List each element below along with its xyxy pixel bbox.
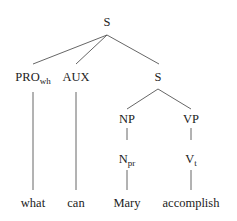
- node-vt-base: V: [185, 152, 194, 166]
- leaf-accomplish: accomplish: [163, 197, 220, 210]
- leaf-what: what: [21, 197, 45, 210]
- leaf-can: can: [67, 197, 84, 210]
- node-pro-sub: wh: [40, 76, 51, 86]
- node-np: NP: [119, 113, 135, 126]
- node-aux: AUX: [62, 71, 89, 84]
- node-pro-base: PRO: [15, 70, 39, 84]
- edge-s-s: [107, 35, 159, 64]
- edge-s-np: [127, 89, 158, 109]
- edge-s-vp: [158, 89, 191, 109]
- tree-edges: [0, 0, 237, 221]
- leaf-mary: Mary: [113, 197, 140, 210]
- node-vt-sub: t: [194, 158, 197, 168]
- edge-s-aux: [76, 35, 107, 64]
- node-vp: VP: [183, 113, 199, 126]
- node-npr-base: N: [119, 152, 128, 166]
- node-npr-sub: pr: [128, 158, 136, 168]
- node-vt: Vt: [185, 153, 197, 168]
- node-npr: Npr: [119, 153, 136, 168]
- node-pro-wh: PROwh: [15, 71, 50, 86]
- node-s-root: S: [104, 16, 111, 29]
- edge-s-pro: [33, 35, 107, 64]
- node-s-inner: S: [155, 71, 162, 84]
